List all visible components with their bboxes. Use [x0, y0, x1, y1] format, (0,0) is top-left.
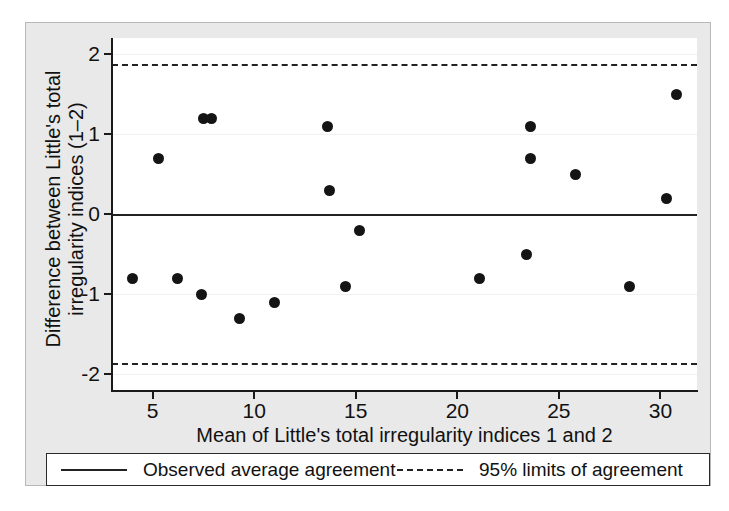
reference-line-lower-limit-of-agreement: [112, 363, 697, 365]
y-axis-title: Difference between Little's total irregu…: [42, 29, 88, 389]
gridline-y: [112, 134, 697, 135]
data-point: [127, 273, 138, 284]
y-axis-title-line-2: irregularity indices (1–2): [65, 29, 88, 389]
y-tick-label: 1: [88, 123, 100, 144]
x-tick-label: 30: [649, 400, 672, 421]
legend-item-observed-average: Observed average agreement: [61, 454, 395, 485]
x-tick-label: 5: [147, 400, 159, 421]
data-point: [206, 113, 217, 124]
y-tick-label: 2: [88, 43, 100, 64]
y-tick: [104, 373, 111, 375]
data-point: [153, 153, 164, 164]
x-tick: [558, 392, 560, 399]
y-tick: [104, 213, 111, 215]
bland-altman-figure: -2-1012 51015202530 Mean of Little's tot…: [0, 0, 729, 511]
data-point: [324, 185, 335, 196]
data-point: [624, 281, 635, 292]
data-point: [661, 193, 672, 204]
data-point: [340, 281, 351, 292]
y-axis-line: [111, 38, 113, 392]
x-tick: [253, 392, 255, 399]
x-axis-line: [111, 390, 698, 392]
x-tick-label: 15: [344, 400, 367, 421]
x-axis-title: Mean of Little's total irregularity indi…: [112, 424, 697, 447]
x-tick: [152, 392, 154, 399]
data-point: [671, 89, 682, 100]
gridline-y: [112, 54, 697, 55]
y-tick: [104, 293, 111, 295]
x-tick-label: 20: [446, 400, 469, 421]
data-point: [269, 297, 280, 308]
data-point: [525, 121, 536, 132]
data-point: [172, 273, 183, 284]
x-tick-label: 10: [243, 400, 266, 421]
data-point: [521, 249, 532, 260]
x-tick: [355, 392, 357, 399]
y-tick-label: 0: [88, 203, 100, 224]
legend: Observed average agreement 95% limits of…: [46, 453, 710, 486]
x-tick-label: 25: [547, 400, 570, 421]
data-point: [474, 273, 485, 284]
dashed-line-icon: [397, 469, 463, 471]
data-point: [196, 289, 207, 300]
y-tick: [104, 53, 111, 55]
solid-line-icon: [61, 469, 127, 471]
gridline-y: [112, 374, 697, 375]
x-tick: [659, 392, 661, 399]
y-tick: [104, 133, 111, 135]
reference-line-upper-limit-of-agreement: [112, 64, 697, 66]
legend-item-limits-of-agreement: 95% limits of agreement: [397, 454, 683, 485]
y-axis-title-line-1: Difference between Little's total: [42, 71, 64, 348]
x-tick: [456, 392, 458, 399]
data-point: [570, 169, 581, 180]
data-point: [525, 153, 536, 164]
legend-label-limits-of-agreement: 95% limits of agreement: [479, 459, 683, 481]
data-point: [354, 225, 365, 236]
data-point: [322, 121, 333, 132]
data-point: [234, 313, 245, 324]
legend-label-observed-average: Observed average agreement: [143, 459, 395, 481]
reference-line-observed-average-agreement: [112, 214, 697, 216]
